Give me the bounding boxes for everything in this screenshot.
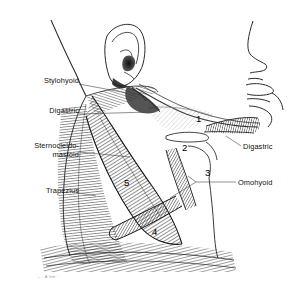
anatomy-figure: Stylohyoid Digastric Sternocleido- masto… xyxy=(0,0,298,294)
label-stylohyoid-text: Stylohyoid xyxy=(44,76,79,85)
label-omohyoid: Omohyoid xyxy=(238,178,272,187)
number-posterior-triangle: 5 xyxy=(124,177,129,188)
label-digastric-left-text: Digastric xyxy=(49,106,79,115)
label-scm-line2: mastoid xyxy=(4,150,79,159)
label-omohyoid-text: Omohyoid xyxy=(238,178,272,187)
label-trapezius: Trapezius xyxy=(4,186,79,195)
label-digastric-left: Digastric xyxy=(4,106,79,115)
number-muscular-triangle: 3 xyxy=(205,167,210,178)
artist-signature: – · A·hm·· xyxy=(38,274,59,279)
label-digastric-right: Digastric xyxy=(243,142,273,151)
label-sternocleidomastoid: Sternocleido- mastoid xyxy=(4,141,79,159)
label-scm-line1: Sternocleido- xyxy=(4,141,79,150)
number-carotid-triangle: 2 xyxy=(182,142,187,153)
number-subclavian-triangle: 4 xyxy=(152,226,157,237)
label-stylohyoid: Stylohyoid xyxy=(4,76,79,85)
label-trapezius-text: Trapezius xyxy=(46,186,79,195)
label-digastric-right-text: Digastric xyxy=(243,142,273,151)
number-submandibular-triangle: 1 xyxy=(196,113,201,124)
